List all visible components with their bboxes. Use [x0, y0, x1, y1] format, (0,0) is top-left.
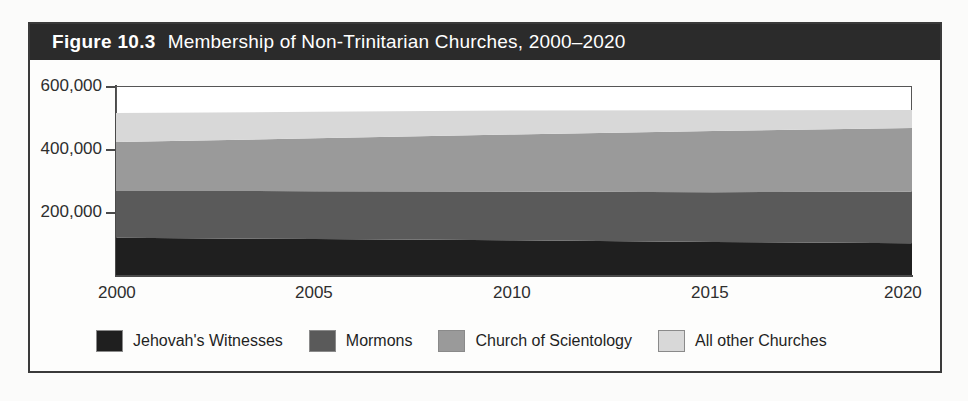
legend-label: All other Churches	[695, 332, 827, 350]
x-tick-label-2020: 2020	[884, 283, 922, 303]
stacked-area-chart	[116, 86, 912, 275]
chart-legend: Jehovah's Witnesses Mormons Church of Sc…	[96, 330, 853, 352]
x-tick-label-2005: 2005	[295, 283, 333, 303]
legend-item: All other Churches	[658, 330, 827, 352]
area-layers	[116, 110, 912, 275]
legend-swatch-icon	[658, 330, 685, 352]
legend-swatch-icon	[309, 330, 336, 352]
x-tick-label-2015: 2015	[691, 283, 729, 303]
x-tick-label-2010: 2010	[493, 283, 531, 303]
x-axis-line	[115, 275, 913, 277]
legend-swatch-icon	[96, 330, 123, 352]
x-tick-label-2000: 2000	[98, 283, 136, 303]
y-tick-label-400000: 400,000	[41, 139, 102, 159]
legend-label: Mormons	[346, 332, 413, 350]
legend-swatch-icon	[438, 330, 465, 352]
legend-label: Jehovah's Witnesses	[133, 332, 283, 350]
y-tick-label-600000: 600,000	[41, 76, 102, 96]
legend-label: Church of Scientology	[475, 332, 632, 350]
legend-item: Church of Scientology	[438, 330, 632, 352]
legend-item: Mormons	[309, 330, 413, 352]
area-series	[116, 238, 912, 275]
figure-title-bar: Figure 10.3 Membership of Non-Trinitaria…	[30, 24, 940, 60]
figure-title: Membership of Non-Trinitarian Churches, …	[168, 31, 626, 53]
area-series	[116, 191, 912, 243]
y-tick-label-200000: 200,000	[41, 202, 102, 222]
legend-item: Jehovah's Witnesses	[96, 330, 283, 352]
y-axis-labels: 600,000 400,000 200,000	[0, 0, 102, 401]
plot-area	[116, 86, 912, 275]
